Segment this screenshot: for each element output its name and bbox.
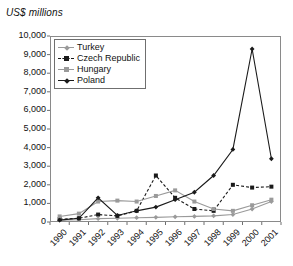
data-point <box>230 212 235 217</box>
data-point <box>192 207 196 211</box>
y-axis-tick-label: 4,000 <box>4 142 46 152</box>
legend-label: Turkey <box>75 42 104 53</box>
y-axis-tick-label: 3,000 <box>4 160 46 170</box>
data-point <box>269 198 273 202</box>
legend-label: Hungary <box>75 64 111 75</box>
data-point <box>96 216 101 221</box>
data-point <box>154 194 158 198</box>
data-point <box>135 200 139 204</box>
data-point <box>192 200 196 204</box>
data-point <box>231 209 235 213</box>
chart-container: US$ millions 10,0009,0008,0007,0006,0005… <box>0 0 293 266</box>
data-point <box>192 214 197 219</box>
data-point <box>269 185 273 189</box>
data-point <box>173 214 178 219</box>
data-point <box>250 47 255 52</box>
data-point <box>134 215 139 220</box>
data-point <box>231 183 235 187</box>
legend-label: Czech Republic <box>75 53 140 64</box>
y-axis-tick-label: 2,000 <box>4 179 46 189</box>
legend-marker-icon <box>57 53 75 64</box>
y-axis-tick-label: 6,000 <box>4 104 46 114</box>
data-point <box>250 203 254 207</box>
y-axis-tick-label: 5,000 <box>4 123 46 133</box>
data-point <box>250 186 254 190</box>
chart-legend: TurkeyCzech RepublicHungaryPoland <box>54 39 146 89</box>
y-axis-tick-label: 10,000 <box>4 30 46 40</box>
y-axis-tick-label: 1,000 <box>4 197 46 207</box>
data-point <box>250 207 255 212</box>
data-point <box>154 174 158 178</box>
y-axis-tick-label: 7,000 <box>4 86 46 96</box>
series-czech-republic <box>58 174 274 222</box>
data-point <box>211 213 216 218</box>
data-point <box>153 205 158 210</box>
data-point <box>96 213 100 217</box>
legend-label: Poland <box>75 75 105 86</box>
data-point <box>212 207 216 211</box>
data-point <box>77 212 81 216</box>
legend-item-turkey[interactable]: Turkey <box>57 42 142 53</box>
data-point <box>115 199 119 203</box>
series-turkey <box>57 199 274 222</box>
legend-marker-icon <box>57 64 75 75</box>
legend-item-hungary[interactable]: Hungary <box>57 64 142 75</box>
data-point <box>153 215 158 220</box>
y-axis-tick-label: 9,000 <box>4 49 46 59</box>
data-point <box>173 188 177 192</box>
legend-marker-icon <box>57 42 75 53</box>
data-point <box>269 156 274 161</box>
legend-item-czech-republic[interactable]: Czech Republic <box>57 53 142 64</box>
legend-marker-icon <box>57 75 75 86</box>
y-axis-tick-label: 0 <box>4 216 46 226</box>
legend-item-poland[interactable]: Poland <box>57 75 142 86</box>
y-axis-tick-label: 8,000 <box>4 67 46 77</box>
